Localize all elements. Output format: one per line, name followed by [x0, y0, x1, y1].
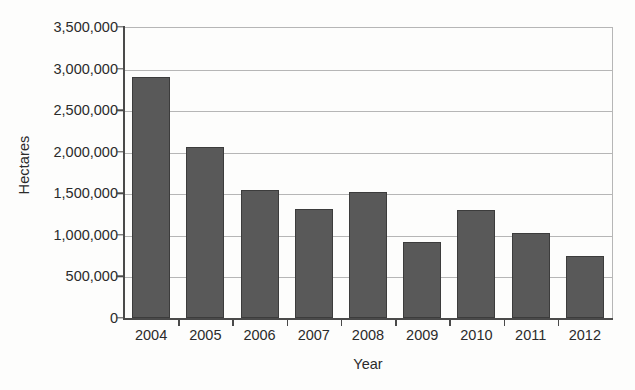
x-axis-tick-mark — [178, 319, 179, 326]
bar-2008[interactable] — [349, 192, 387, 318]
x-axis-tick-mark — [395, 319, 396, 326]
x-axis-tick-label: 2004 — [135, 328, 167, 343]
bar-chart: Hectares 0500,0001,000,0001,500,0002,000… — [0, 0, 635, 390]
y-axis-tick-label: 500,000 — [40, 269, 118, 284]
bar-2011[interactable] — [512, 233, 550, 318]
y-axis-tick-label: 1,500,000 — [40, 186, 118, 201]
y-axis-tick-label: 0 — [40, 311, 118, 326]
y-axis-tick-label: 2,000,000 — [40, 144, 118, 159]
y-axis-tick-mark — [116, 109, 124, 110]
x-axis-tick-mark — [504, 319, 505, 326]
x-axis-tick-label: 2010 — [460, 328, 492, 343]
bar-2010[interactable] — [457, 210, 495, 318]
y-axis-tick-label-group: 0500,0001,000,0001,500,0002,000,0002,500… — [40, 27, 118, 318]
x-axis-tick-mark — [287, 319, 288, 326]
y-axis-tick-mark — [116, 193, 124, 194]
gridline — [124, 111, 612, 112]
bar-2012[interactable] — [566, 256, 604, 318]
x-axis-tick-label: 2006 — [243, 328, 275, 343]
x-axis-tick-label: 2011 — [515, 328, 546, 343]
x-axis-tick-label: 2007 — [298, 328, 330, 343]
x-axis-tick-mark — [558, 319, 559, 326]
y-axis-tick-mark — [116, 151, 124, 152]
y-axis-tick-label: 3,000,000 — [40, 61, 118, 76]
gridline — [124, 70, 612, 71]
bar-2007[interactable] — [295, 209, 333, 318]
y-axis-tick-mark — [116, 26, 124, 27]
x-axis-tick-label: 2012 — [569, 328, 601, 343]
y-axis-tick-mark — [116, 276, 124, 277]
y-axis-tick-mark — [116, 68, 124, 69]
x-axis-tick-label: 2009 — [406, 328, 438, 343]
bar-2004[interactable] — [132, 77, 170, 318]
x-axis-tick-mark — [232, 319, 233, 326]
y-axis-tick-mark — [116, 317, 124, 318]
y-axis-tick-label: 2,500,000 — [40, 103, 118, 118]
y-axis-title-label: Hectares — [16, 136, 32, 195]
x-axis-tick-label: 2005 — [189, 328, 221, 343]
bar-2006[interactable] — [241, 190, 279, 318]
bar-2005[interactable] — [186, 147, 224, 318]
x-axis-title: Year — [124, 356, 612, 372]
x-axis-tick-mark — [341, 319, 342, 326]
y-axis-tick-label: 3,500,000 — [40, 20, 118, 35]
x-axis-tick-mark — [449, 319, 450, 326]
x-axis-tick-label: 2008 — [352, 328, 384, 343]
x-axis-line — [123, 318, 613, 320]
y-axis-tick-label: 1,000,000 — [40, 228, 118, 243]
bar-2009[interactable] — [403, 242, 441, 318]
y-axis-tick-mark — [116, 234, 124, 235]
